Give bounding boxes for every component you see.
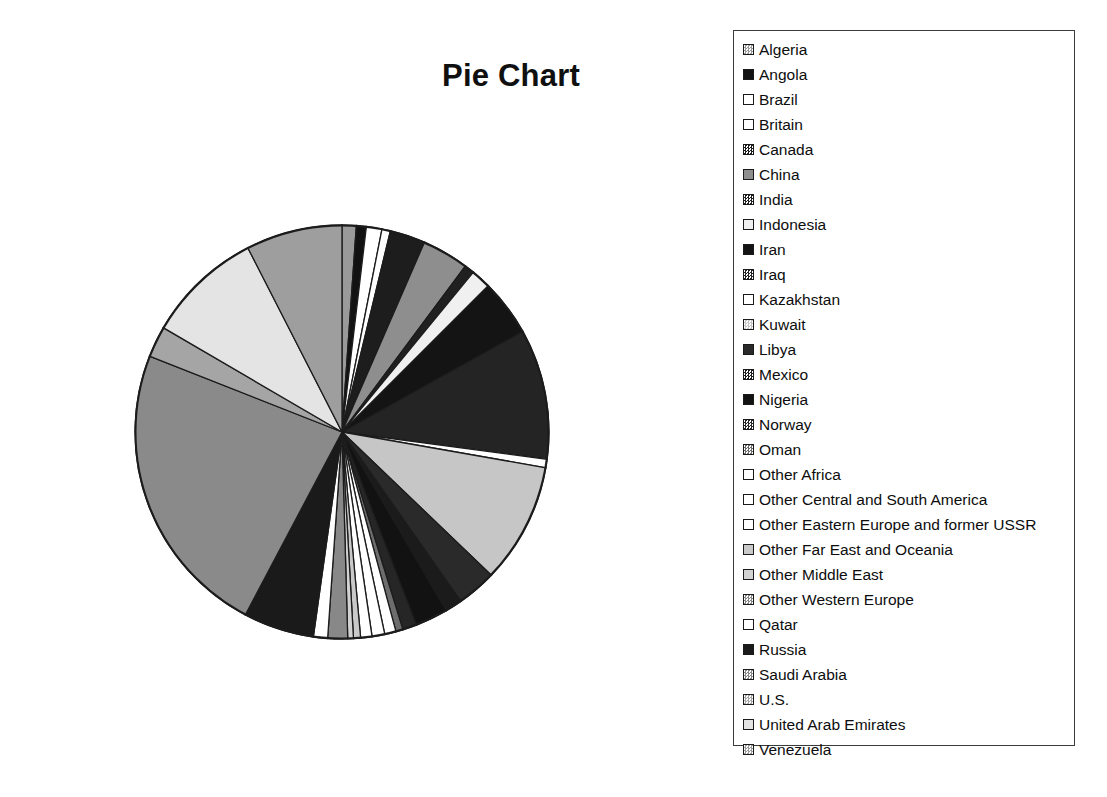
legend-item-label: Mexico bbox=[759, 362, 808, 387]
legend-swatch-icon bbox=[743, 344, 754, 355]
legend-item-label: Iraq bbox=[759, 262, 786, 287]
legend-item[interactable]: Other Eastern Europe and former USSR bbox=[743, 512, 1074, 537]
legend-item-label: Venezuela bbox=[759, 737, 831, 762]
legend-item[interactable]: Iraq bbox=[743, 262, 1074, 287]
legend-item[interactable]: Other Africa bbox=[743, 462, 1074, 487]
legend-swatch-icon bbox=[743, 144, 754, 155]
legend-item-label: China bbox=[759, 162, 800, 187]
legend-item[interactable]: India bbox=[743, 187, 1074, 212]
legend-swatch-icon bbox=[743, 219, 754, 230]
legend-swatch-icon bbox=[743, 594, 754, 605]
legend-item-label: Russia bbox=[759, 637, 806, 662]
legend-swatch-icon bbox=[743, 194, 754, 205]
pie-chart bbox=[128, 218, 556, 646]
legend-swatch-icon bbox=[743, 719, 754, 730]
legend-item-label: Other Eastern Europe and former USSR bbox=[759, 512, 1036, 537]
legend-item[interactable]: China bbox=[743, 162, 1074, 187]
legend-swatch-icon bbox=[743, 494, 754, 505]
legend-item[interactable]: Indonesia bbox=[743, 212, 1074, 237]
legend-swatch-icon bbox=[743, 319, 754, 330]
legend-swatch-icon bbox=[743, 294, 754, 305]
legend-item[interactable]: Russia bbox=[743, 637, 1074, 662]
legend-item-label: Canada bbox=[759, 137, 813, 162]
legend-swatch-icon bbox=[743, 544, 754, 555]
legend-item-label: Saudi Arabia bbox=[759, 662, 847, 687]
legend-item-label: Britain bbox=[759, 112, 803, 137]
legend-swatch-icon bbox=[743, 744, 754, 755]
legend-item[interactable]: Angola bbox=[743, 62, 1074, 87]
legend-item[interactable]: Kuwait bbox=[743, 312, 1074, 337]
legend-item-label: Kazakhstan bbox=[759, 287, 840, 312]
legend-item-label: United Arab Emirates bbox=[759, 712, 905, 737]
legend-item[interactable]: Algeria bbox=[743, 37, 1074, 62]
legend-item-label: Libya bbox=[759, 337, 796, 362]
legend-swatch-icon bbox=[743, 44, 754, 55]
legend-swatch-icon bbox=[743, 394, 754, 405]
legend-item[interactable]: U.S. bbox=[743, 687, 1074, 712]
chart-legend: AlgeriaAngolaBrazilBritainCanadaChinaInd… bbox=[733, 30, 1075, 746]
legend-item-label: U.S. bbox=[759, 687, 789, 712]
pie-chart-figure: Pie Chart AlgeriaAngolaBrazilBritainCana… bbox=[0, 0, 1107, 797]
legend-item[interactable]: Saudi Arabia bbox=[743, 662, 1074, 687]
legend-item-label: Other Western Europe bbox=[759, 587, 914, 612]
legend-item-label: Indonesia bbox=[759, 212, 826, 237]
legend-swatch-icon bbox=[743, 694, 754, 705]
legend-item[interactable]: Other Western Europe bbox=[743, 587, 1074, 612]
legend-swatch-icon bbox=[743, 169, 754, 180]
legend-swatch-icon bbox=[743, 469, 754, 480]
legend-item[interactable]: Venezuela bbox=[743, 737, 1074, 762]
legend-item-label: Iran bbox=[759, 237, 786, 262]
legend-swatch-icon bbox=[743, 669, 754, 680]
legend-item-label: Angola bbox=[759, 62, 807, 87]
legend-item[interactable]: Other Middle East bbox=[743, 562, 1074, 587]
legend-swatch-icon bbox=[743, 644, 754, 655]
legend-swatch-icon bbox=[743, 519, 754, 530]
legend-swatch-icon bbox=[743, 69, 754, 80]
legend-item[interactable]: Norway bbox=[743, 412, 1074, 437]
legend-item[interactable]: Iran bbox=[743, 237, 1074, 262]
page-title: Pie Chart bbox=[380, 58, 642, 94]
legend-item[interactable]: Qatar bbox=[743, 612, 1074, 637]
legend-item-label: Brazil bbox=[759, 87, 798, 112]
legend-item[interactable]: United Arab Emirates bbox=[743, 712, 1074, 737]
legend-item-label: Kuwait bbox=[759, 312, 806, 337]
legend-swatch-icon bbox=[743, 244, 754, 255]
legend-item[interactable]: Libya bbox=[743, 337, 1074, 362]
legend-item[interactable]: Other Far East and Oceania bbox=[743, 537, 1074, 562]
legend-swatch-icon bbox=[743, 119, 754, 130]
legend-swatch-icon bbox=[743, 619, 754, 630]
legend-swatch-icon bbox=[743, 369, 754, 380]
legend-item-label: Other Far East and Oceania bbox=[759, 537, 953, 562]
legend-item-label: Other Africa bbox=[759, 462, 841, 487]
legend-item[interactable]: Brazil bbox=[743, 87, 1074, 112]
legend-item[interactable]: Other Central and South America bbox=[743, 487, 1074, 512]
legend-item-label: Nigeria bbox=[759, 387, 808, 412]
legend-item-label: Other Central and South America bbox=[759, 487, 987, 512]
legend-swatch-icon bbox=[743, 569, 754, 580]
legend-item-label: Oman bbox=[759, 437, 801, 462]
legend-item[interactable]: Canada bbox=[743, 137, 1074, 162]
legend-swatch-icon bbox=[743, 444, 754, 455]
legend-item[interactable]: Britain bbox=[743, 112, 1074, 137]
legend-item-label: Qatar bbox=[759, 612, 798, 637]
legend-item-label: Other Middle East bbox=[759, 562, 883, 587]
legend-item[interactable]: Mexico bbox=[743, 362, 1074, 387]
pie-chart-svg bbox=[128, 218, 556, 646]
legend-item-label: India bbox=[759, 187, 793, 212]
pie-slices-group bbox=[135, 225, 549, 639]
legend-item[interactable]: Nigeria bbox=[743, 387, 1074, 412]
legend-item[interactable]: Kazakhstan bbox=[743, 287, 1074, 312]
legend-swatch-icon bbox=[743, 94, 754, 105]
legend-swatch-icon bbox=[743, 269, 754, 280]
legend-item-label: Norway bbox=[759, 412, 812, 437]
legend-item-label: Algeria bbox=[759, 37, 807, 62]
legend-swatch-icon bbox=[743, 419, 754, 430]
legend-item[interactable]: Oman bbox=[743, 437, 1074, 462]
